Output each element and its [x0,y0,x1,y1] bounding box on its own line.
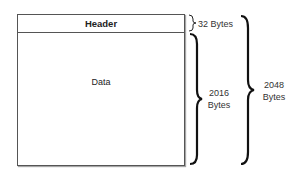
data-size-unit: Bytes [204,99,234,111]
braces [0,0,295,174]
data-brace-icon [190,34,202,164]
header-size-label: 32 Bytes [198,18,233,30]
total-size-label: 2048 Bytes [257,79,291,103]
total-brace-icon [241,16,254,164]
total-size-number: 2048 [257,79,291,91]
header-brace-icon [189,15,196,31]
total-size-unit: Bytes [257,91,291,103]
data-size-number: 2016 [204,87,234,99]
data-size-label: 2016 Bytes [204,87,234,111]
